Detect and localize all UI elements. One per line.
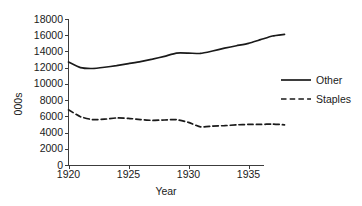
y-tick-label: 12000 [34, 61, 63, 73]
y-tick-label: 8000 [40, 94, 64, 106]
x-tick-label: 1935 [237, 168, 261, 180]
x-tick-label: 1920 [57, 168, 81, 180]
line-chart: 0200040006000800010000120001400016000180… [0, 0, 362, 206]
y-tick-label: 10000 [34, 77, 63, 89]
y-axis-tick-marks [65, 20, 69, 166]
x-tick-label: 1925 [117, 168, 141, 180]
legend-label-other: Other [316, 74, 343, 86]
y-tick-label: 18000 [34, 13, 63, 25]
x-tick-label: 1930 [177, 168, 201, 180]
y-tick-label: 16000 [34, 29, 63, 41]
chart-container: 0200040006000800010000120001400016000180… [0, 0, 362, 206]
x-axis-tick-labels: 1920192519301935 [57, 168, 261, 180]
y-tick-label: 4000 [40, 126, 64, 138]
x-axis-tick-marks [69, 166, 249, 170]
y-axis-title: 000s [12, 93, 24, 116]
y-axis-tick-labels: 0200040006000800010000120001400016000180… [34, 13, 63, 171]
series-line-other [69, 34, 285, 68]
series-lines [69, 34, 285, 127]
series-line-staples [69, 110, 285, 127]
y-tick-label: 2000 [40, 142, 64, 154]
y-tick-label: 6000 [40, 110, 64, 122]
x-axis-title: Year [155, 185, 177, 197]
y-tick-label: 14000 [34, 45, 63, 57]
legend-label-staples: Staples [316, 93, 351, 105]
chart-legend: OtherStaples [281, 74, 351, 105]
